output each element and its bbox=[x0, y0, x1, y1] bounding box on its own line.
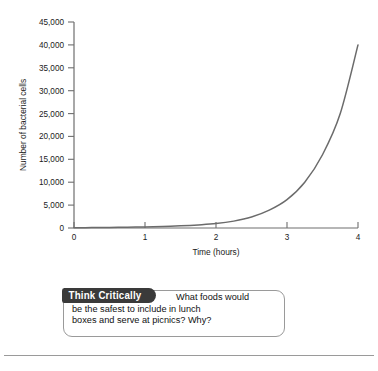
y-tick-label-15000: 15,000 bbox=[39, 155, 64, 164]
growth-curve-line bbox=[74, 45, 358, 228]
y-tick-label-20000: 20,000 bbox=[39, 132, 64, 141]
y-tick-label-5000: 5,000 bbox=[44, 201, 65, 210]
y-tick-label-40000: 40,000 bbox=[39, 41, 64, 50]
y-tick-label-30000: 30,000 bbox=[39, 87, 64, 96]
bottom-divider bbox=[4, 355, 374, 356]
x-tick-label-0: 0 bbox=[72, 233, 77, 242]
y-axis-ticks bbox=[68, 22, 74, 228]
think-critically-callout: Think Critically What foods would be the… bbox=[63, 290, 285, 337]
think-critically-text: What foods would be the safest to includ… bbox=[72, 292, 280, 327]
x-tick-label-1: 1 bbox=[143, 233, 148, 242]
y-tick-label-45000: 45,000 bbox=[39, 18, 64, 27]
bacterial-growth-chart: 45,000 40,000 35,000 30,000 25,000 20,00… bbox=[0, 0, 378, 270]
y-tick-label-10000: 10,000 bbox=[39, 178, 64, 187]
x-tick-label-2: 2 bbox=[214, 233, 219, 242]
callout-line-1: What foods would bbox=[176, 292, 249, 302]
x-tick-label-4: 4 bbox=[356, 233, 361, 242]
bacterial-growth-figure: 45,000 40,000 35,000 30,000 25,000 20,00… bbox=[0, 0, 378, 270]
y-tick-label-0: 0 bbox=[59, 224, 64, 233]
x-tick-label-3: 3 bbox=[285, 233, 290, 242]
callout-line-2: be the safest to include in lunch bbox=[72, 304, 201, 314]
y-axis-title: Number of bacterial cells bbox=[18, 79, 28, 171]
x-axis-title: Time (hours) bbox=[192, 247, 239, 257]
y-tick-label-35000: 35,000 bbox=[39, 64, 64, 73]
y-tick-label-25000: 25,000 bbox=[39, 110, 64, 119]
callout-line-3: boxes and serve at picnics? Why? bbox=[72, 315, 211, 325]
